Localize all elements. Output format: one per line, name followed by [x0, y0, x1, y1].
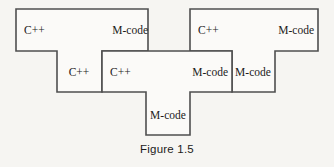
label-middle-source: C++: [110, 66, 131, 78]
label-left-top-target: M-code: [112, 24, 148, 36]
label-right-stem: M-code: [235, 66, 271, 78]
label-left-top-source: C++: [24, 24, 45, 36]
figure-caption: Figure 1.5: [0, 143, 334, 155]
label-left-stem: C++: [69, 66, 90, 78]
label-middle-stem: M-code: [150, 109, 186, 121]
label-middle-target: M-code: [192, 66, 228, 78]
label-right-top-source: C++: [198, 24, 219, 36]
t-diagram-figure: C++ M-code C++ C++ M-code M-code C++ M-c…: [0, 0, 334, 167]
figure-container: C++ M-code C++ C++ M-code M-code C++ M-c…: [0, 0, 334, 167]
middle-t-diagram-shape: [102, 51, 232, 135]
label-right-top-target: M-code: [278, 24, 314, 36]
